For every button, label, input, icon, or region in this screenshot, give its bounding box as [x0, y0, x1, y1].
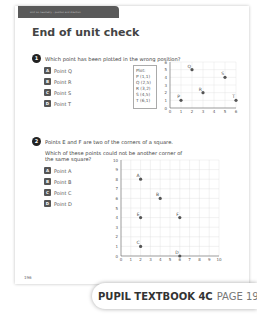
option-label: Point S — [54, 90, 71, 96]
svg-text:P: P — [177, 94, 180, 99]
option-letter-badge: D — [44, 100, 51, 107]
svg-text:5: 5 — [169, 257, 172, 262]
svg-text:4: 4 — [164, 75, 167, 80]
plot-coordinates-box: Plot: P (1,1) Q (2,5) R (3,2) S (4,5) T … — [133, 65, 157, 109]
svg-text:S: S — [221, 71, 224, 76]
option-letter-badge: A — [44, 167, 51, 174]
option-letter-badge: C — [44, 189, 51, 196]
svg-text:8: 8 — [198, 257, 201, 262]
question-1-text: Which point has been plotted in the wron… — [45, 56, 181, 62]
question-2-text-line1: Points E and F are two of the corners of… — [45, 139, 173, 145]
question-2-text-line3: the same square? — [45, 156, 91, 162]
svg-text:9: 9 — [208, 257, 211, 262]
svg-text:3: 3 — [202, 109, 205, 114]
option-label: Point C — [54, 190, 72, 196]
q1-option-d[interactable]: D Point T — [44, 100, 71, 107]
svg-text:10: 10 — [216, 257, 222, 262]
svg-text:A: A — [137, 173, 141, 178]
unit-header-tab: Unit 14: Geometry – position and directi… — [18, 6, 119, 18]
q2-option-b[interactable]: B Point B — [44, 178, 71, 185]
svg-text:6: 6 — [179, 257, 182, 262]
svg-text:6: 6 — [235, 109, 238, 114]
svg-text:3: 3 — [164, 83, 167, 88]
svg-text:2: 2 — [115, 234, 118, 239]
q1-coordinate-grid: 01234560123456PQRST — [162, 58, 242, 116]
svg-text:6: 6 — [164, 60, 167, 65]
option-letter-badge: B — [44, 178, 51, 185]
svg-text:7: 7 — [188, 257, 191, 262]
svg-text:8: 8 — [115, 177, 118, 182]
svg-text:T: T — [231, 94, 235, 99]
option-label: Point Q — [54, 68, 72, 74]
option-label: Point A — [54, 168, 71, 174]
svg-text:E: E — [137, 212, 140, 217]
svg-text:0: 0 — [169, 109, 172, 114]
svg-text:4: 4 — [159, 257, 162, 262]
svg-text:D: D — [175, 250, 179, 255]
option-label: Point T — [54, 101, 71, 107]
svg-text:C: C — [136, 240, 139, 245]
svg-text:10: 10 — [113, 158, 119, 163]
option-letter-badge: B — [44, 78, 51, 85]
textbook-page: Unit 14: Geometry – position and directi… — [15, 6, 249, 284]
svg-text:0: 0 — [115, 254, 118, 259]
svg-text:3: 3 — [115, 225, 118, 230]
textbook-page-label: PUPIL TEXTBOOK 4C PAGE 196 — [92, 283, 257, 309]
svg-text:0: 0 — [164, 106, 167, 111]
svg-text:4: 4 — [115, 215, 118, 220]
option-letter-badge: D — [44, 200, 51, 207]
q1-option-c[interactable]: C Point S — [44, 89, 71, 96]
page-label: PAGE 196 — [217, 291, 257, 302]
svg-text:0: 0 — [120, 257, 123, 262]
q2-option-d[interactable]: D Point D — [44, 200, 72, 207]
option-letter-badge: A — [44, 67, 51, 74]
svg-text:Q: Q — [187, 64, 191, 69]
option-label: Point D — [54, 201, 72, 207]
svg-text:2: 2 — [164, 90, 167, 95]
q2-option-a[interactable]: A Point A — [44, 167, 71, 174]
unit-label: Unit 14: Geometry – position and directi… — [30, 11, 81, 14]
svg-text:3: 3 — [149, 257, 152, 262]
q1-option-a[interactable]: A Point Q — [44, 67, 72, 74]
svg-text:6: 6 — [115, 196, 118, 201]
svg-text:9: 9 — [115, 167, 118, 172]
svg-text:1: 1 — [164, 98, 167, 103]
svg-text:1: 1 — [115, 244, 118, 249]
svg-text:5: 5 — [115, 206, 118, 211]
svg-text:5: 5 — [224, 109, 227, 114]
option-label: Point B — [54, 179, 71, 185]
question-2-number: 2 — [32, 137, 41, 146]
svg-text:R: R — [199, 87, 202, 92]
svg-text:5: 5 — [164, 67, 167, 72]
svg-text:2: 2 — [191, 109, 194, 114]
book-label: PUPIL TEXTBOOK 4C — [98, 291, 213, 302]
page-title: End of unit check — [32, 26, 139, 39]
option-label: Point R — [54, 79, 71, 85]
svg-text:1: 1 — [130, 257, 133, 262]
q2-option-c[interactable]: C Point C — [44, 189, 72, 196]
option-letter-badge: C — [44, 89, 51, 96]
plot-entry: T (6,1) — [136, 98, 154, 104]
svg-text:7: 7 — [115, 186, 118, 191]
q1-option-b[interactable]: B Point R — [44, 78, 71, 85]
q2-coordinate-grid: 012345678910012345678910ABEFCD — [107, 156, 227, 266]
question-1-number: 1 — [32, 54, 41, 63]
svg-text:1: 1 — [180, 109, 183, 114]
svg-text:4: 4 — [213, 109, 216, 114]
svg-text:F: F — [176, 212, 179, 217]
svg-text:B: B — [156, 192, 159, 197]
page-number: 196 — [24, 275, 32, 280]
svg-text:2: 2 — [139, 257, 142, 262]
